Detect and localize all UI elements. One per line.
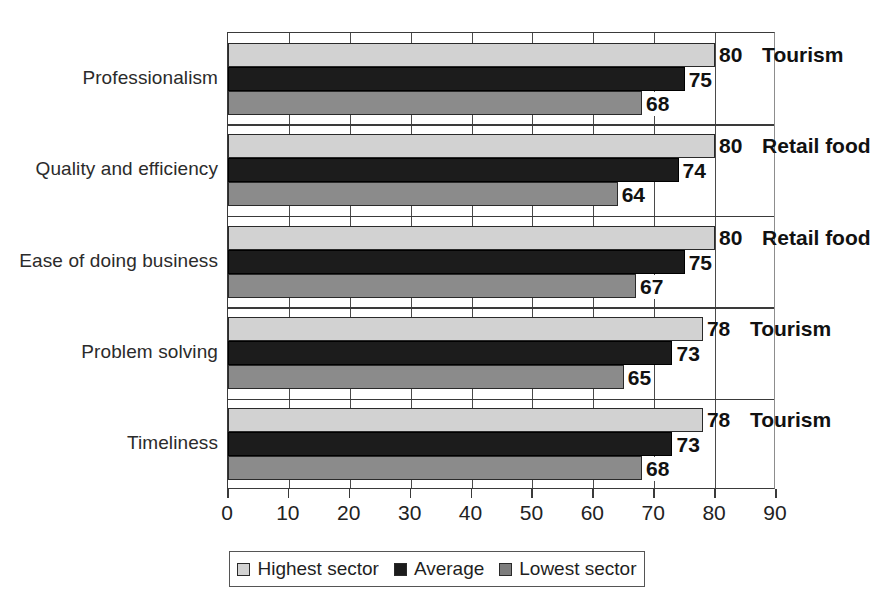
legend-item: Highest sector bbox=[237, 558, 378, 580]
x-axis-tick-label: 50 bbox=[520, 501, 543, 525]
category-label: Professionalism bbox=[0, 67, 218, 89]
legend-item: Lowest sector bbox=[499, 558, 636, 580]
x-axis-tick bbox=[531, 489, 533, 498]
x-axis-tick-label: 90 bbox=[763, 501, 786, 525]
bar bbox=[228, 432, 672, 456]
x-axis-tick bbox=[471, 489, 473, 498]
legend-label: Average bbox=[414, 558, 484, 580]
highest-sector-label: Tourism bbox=[762, 43, 843, 67]
bar bbox=[228, 91, 642, 115]
legend-label: Lowest sector bbox=[519, 558, 636, 580]
bar-value-label: 67 bbox=[639, 275, 664, 299]
bar bbox=[228, 456, 642, 480]
bar bbox=[228, 365, 624, 389]
x-axis-tick-label: 30 bbox=[398, 501, 421, 525]
x-axis-tick bbox=[775, 489, 777, 498]
group-separator bbox=[228, 216, 774, 218]
highest-sector-label: Retail food bbox=[762, 134, 871, 158]
x-axis-tick bbox=[410, 489, 412, 498]
highest-sector-label: Retail food bbox=[762, 226, 871, 250]
highest-sector-label: Tourism bbox=[750, 408, 831, 432]
bar-value-label: 65 bbox=[627, 366, 652, 390]
highest-value-label: 80 bbox=[719, 226, 742, 250]
group-separator bbox=[228, 399, 774, 401]
bar bbox=[228, 274, 636, 298]
bar bbox=[228, 134, 715, 158]
bar bbox=[228, 43, 715, 67]
bar bbox=[228, 317, 703, 341]
legend-label: Highest sector bbox=[257, 558, 378, 580]
category-label: Timeliness bbox=[0, 432, 218, 454]
x-axis: 0102030405060708090 bbox=[227, 489, 775, 499]
bar-value-label: 74 bbox=[682, 159, 707, 183]
bar-value-label: 64 bbox=[621, 183, 646, 207]
x-axis-tick bbox=[714, 489, 716, 498]
x-axis-tick bbox=[349, 489, 351, 498]
x-axis-tick-label: 20 bbox=[337, 501, 360, 525]
bar-value-label: 73 bbox=[675, 342, 700, 366]
plot-area: 75687464756773657368 bbox=[227, 32, 775, 489]
bar-value-label: 75 bbox=[688, 251, 713, 275]
x-axis-tick bbox=[227, 489, 229, 498]
legend-swatch-highest bbox=[237, 563, 250, 576]
highest-value-label: 78 bbox=[707, 317, 730, 341]
legend-swatch-lowest bbox=[499, 563, 512, 576]
bar bbox=[228, 182, 618, 206]
x-axis-tick-label: 60 bbox=[581, 501, 604, 525]
bar bbox=[228, 341, 672, 365]
chart-legend: Highest sectorAverageLowest sector bbox=[229, 551, 645, 587]
bar bbox=[228, 226, 715, 250]
highest-value-label: 78 bbox=[707, 408, 730, 432]
bar bbox=[228, 67, 685, 91]
bar bbox=[228, 250, 685, 274]
legend-swatch-average bbox=[394, 563, 407, 576]
highest-value-label: 80 bbox=[719, 134, 742, 158]
bar-value-label: 75 bbox=[688, 68, 713, 92]
group-separator bbox=[228, 124, 774, 126]
x-axis-tick bbox=[592, 489, 594, 498]
bar bbox=[228, 408, 703, 432]
x-axis-tick-label: 80 bbox=[702, 501, 725, 525]
x-axis-tick-label: 10 bbox=[276, 501, 299, 525]
x-axis-tick-label: 0 bbox=[221, 501, 233, 525]
x-axis-tick-label: 70 bbox=[642, 501, 665, 525]
bar bbox=[228, 158, 679, 182]
x-axis-tick bbox=[288, 489, 290, 498]
x-axis-tick-label: 40 bbox=[459, 501, 482, 525]
bar-value-label: 68 bbox=[645, 457, 670, 481]
group-separator bbox=[228, 307, 774, 309]
bar-value-label: 73 bbox=[675, 433, 700, 457]
category-label: Problem solving bbox=[0, 341, 218, 363]
category-label: Ease of doing business bbox=[0, 250, 218, 272]
category-label: Quality and efficiency bbox=[0, 158, 218, 180]
bar-value-label: 68 bbox=[645, 92, 670, 116]
highest-sector-label: Tourism bbox=[750, 317, 831, 341]
highest-value-label: 80 bbox=[719, 43, 742, 67]
legend-item: Average bbox=[394, 558, 484, 580]
x-axis-tick bbox=[653, 489, 655, 498]
